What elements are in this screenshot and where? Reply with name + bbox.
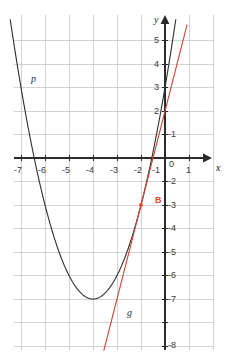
coordinate-plot-figure: -7 -6 -5 -4 -3 -2 -1 0 1 5 4 3 2 -1 -2 -… bbox=[0, 0, 233, 361]
parabola-label-p: p bbox=[31, 74, 36, 84]
ytick-label-2: 2 bbox=[154, 107, 159, 116]
grid-lines bbox=[14, 15, 214, 350]
ytick-label--1: -1 bbox=[168, 130, 176, 139]
xtick-label--4: -4 bbox=[86, 166, 94, 175]
xtick-label--2: -2 bbox=[134, 166, 142, 175]
ytick-label--7: -7 bbox=[168, 295, 176, 304]
ytick-label--5: -5 bbox=[168, 248, 176, 257]
xtick-label--7: -7 bbox=[14, 166, 22, 175]
ytick-label-4: 4 bbox=[154, 60, 159, 69]
x-axis bbox=[14, 154, 212, 163]
xtick-label--5: -5 bbox=[62, 166, 70, 175]
ytick-label-5: 5 bbox=[154, 36, 159, 45]
x-axis-label: x bbox=[216, 163, 220, 173]
plot-canvas bbox=[0, 0, 233, 361]
point-b-marker bbox=[139, 203, 143, 207]
xtick-label--1: -1 bbox=[152, 166, 160, 175]
ytick-label-3: 3 bbox=[154, 83, 159, 92]
ytick-label--3: -3 bbox=[168, 201, 176, 210]
ytick-label--8: -8 bbox=[168, 341, 176, 350]
xtick-label--3: -3 bbox=[110, 166, 118, 175]
ytick-label--2: -2 bbox=[168, 177, 176, 186]
xtick-label-1: 1 bbox=[186, 166, 191, 175]
xtick-label-0: 0 bbox=[169, 160, 174, 169]
ytick-label--4: -4 bbox=[168, 224, 176, 233]
point-b-label: B bbox=[155, 196, 162, 205]
ytick-label--6: -6 bbox=[168, 271, 176, 280]
xtick-label--6: -6 bbox=[38, 166, 46, 175]
y-axis-label: y bbox=[154, 15, 158, 25]
tangent-label-g: g bbox=[127, 308, 132, 318]
